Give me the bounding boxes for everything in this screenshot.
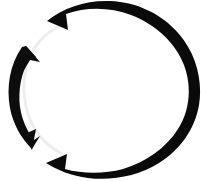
thick-outer-arc <box>46 1 200 179</box>
icon-canvas: Circular refresh arrows icon <box>0 0 201 181</box>
refresh-circular-arrows-icon: Circular refresh arrows icon <box>0 0 201 181</box>
